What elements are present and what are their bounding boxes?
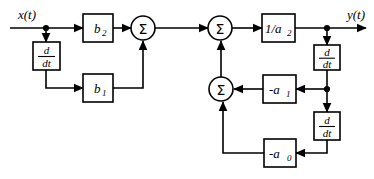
derivative-input-denominator: dt: [42, 57, 52, 69]
gain-b1-subscript: 1: [102, 88, 107, 98]
gain-b2-subscript: 2: [102, 28, 107, 38]
gain-neg-a0-base: -a: [269, 146, 280, 161]
junction-dot-output: [324, 25, 330, 31]
wire-gain-neg-a0-to-sigma3: [223, 102, 264, 153]
output-signal-label: y(t): [345, 7, 365, 22]
summing-junction-3-label: Σ: [217, 82, 226, 98]
wire-derivative-to-b1: [46, 70, 83, 88]
diagram-canvas: d dt b 2 b 1 1/a 2 -a 1 -a 0 d dt d dt: [0, 0, 374, 179]
summing-junction-2-label: Σ: [216, 21, 225, 37]
derivative-input-numerator: d: [44, 44, 50, 56]
derivative-output-2-denominator: dt: [323, 127, 333, 139]
wire-b1-to-sigma1: [113, 41, 143, 88]
gain-inv-a2-base: 1/a: [265, 21, 282, 36]
derivative-output-1-numerator: d: [324, 46, 330, 58]
wire-derivative-2-to-gain-neg-a0: [296, 140, 327, 153]
gain-neg-a0-subscript: 0: [287, 153, 292, 163]
derivative-output-1-denominator: dt: [323, 58, 333, 70]
gain-b2-base: b: [94, 21, 101, 36]
gain-neg-a1-subscript: 1: [286, 89, 291, 99]
junction-dot-input: [43, 25, 49, 31]
gain-b1-base: b: [94, 81, 101, 96]
gain-neg-a1-base: -a: [269, 82, 280, 97]
summing-junction-1-label: Σ: [139, 21, 148, 37]
junction-dot-first-derivative: [324, 86, 330, 92]
input-signal-label: x(t): [17, 7, 36, 22]
gain-inv-a2-subscript: 2: [287, 28, 292, 38]
derivative-output-2-numerator: d: [324, 114, 330, 126]
block-diagram: d dt b 2 b 1 1/a 2 -a 1 -a 0 d dt d dt: [0, 0, 374, 179]
